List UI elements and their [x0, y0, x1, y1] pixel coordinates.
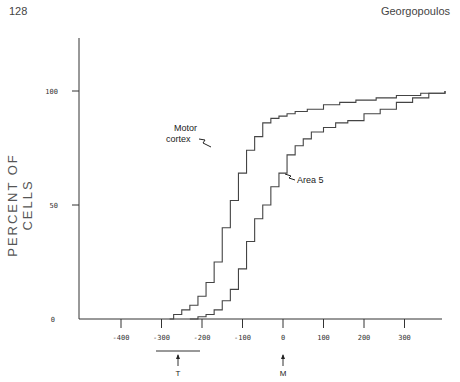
annotation-motor-cortex: Motor [174, 123, 197, 133]
x-tick-label: 200 [358, 334, 371, 342]
annotation-area-5: Area 5 [297, 175, 324, 185]
m-marker-label: M [280, 369, 287, 378]
x-tick-label: 100 [317, 334, 330, 342]
x-tick-label: -200 [194, 334, 211, 342]
x-tick-label: -300 [153, 334, 170, 342]
x-tick-label: 300 [398, 334, 411, 342]
series-motor-cortex [170, 91, 445, 319]
cumulative-step-chart: 050100-400-300-200-1000100200300Motorcor… [0, 0, 460, 382]
y-tick-label: 0 [51, 316, 55, 324]
arrow-up-icon [176, 354, 180, 359]
series-area-5 [190, 91, 445, 319]
arrow-icon [285, 174, 295, 180]
x-tick-label: -100 [234, 334, 251, 342]
x-tick-label: -400 [113, 334, 130, 342]
annotation-motor-cortex: cortex [166, 134, 191, 144]
t-marker-label: T [176, 369, 181, 378]
x-tick-label: 0 [281, 334, 285, 342]
arrow-up-icon [281, 354, 285, 359]
y-tick-label: 50 [50, 202, 58, 210]
arrow-icon [199, 139, 211, 147]
y-tick-label: 100 [45, 88, 58, 96]
